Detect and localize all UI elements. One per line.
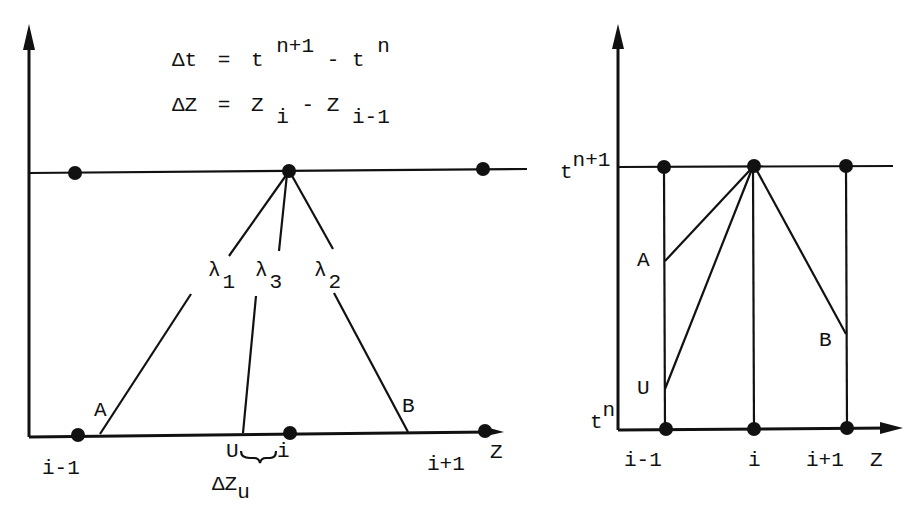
node-top-i xyxy=(282,164,296,178)
right-x-label-i-1: i-1 xyxy=(624,449,662,472)
lambda3-label: λ3 xyxy=(255,259,282,294)
right-x-label-i: i xyxy=(748,449,761,472)
x-label-i: i xyxy=(277,440,290,463)
right-node-top-i-1 xyxy=(657,160,671,174)
lambda3-line-lower xyxy=(243,296,256,433)
left-time-axis-arrow-icon xyxy=(23,24,35,50)
x-label-i+1: i+1 xyxy=(427,453,465,476)
y-label-tn1: tn+1 xyxy=(560,149,610,184)
node-top-i+1 xyxy=(476,162,490,176)
lambda1-label: λ1 xyxy=(208,259,235,294)
delta-zu-brace xyxy=(241,451,276,463)
lambda2-line-lower xyxy=(334,293,408,432)
right-node-top-i+1 xyxy=(839,159,853,173)
right-node-bottom-i xyxy=(747,422,761,436)
right-node-bottom-i-1 xyxy=(659,422,673,436)
right-lambda2-line xyxy=(756,169,846,334)
right-node-bottom-i+1 xyxy=(840,421,854,435)
x-label-i-1: i-1 xyxy=(42,457,80,480)
right-time-axis-arrow-icon xyxy=(612,24,624,49)
left-panel: Δt = t n+1 - t n ΔZ = Z i - Z i-1 λ1 λ3 … xyxy=(23,24,527,504)
lambda3-line-upper xyxy=(279,174,287,251)
node-top-i-1 xyxy=(68,166,82,180)
vertical-i+1 xyxy=(846,166,847,428)
y-label-tn: tn xyxy=(590,399,615,434)
right-panel: tn+1 tn A B U i-1 i i+1 Z xyxy=(560,24,903,472)
left-time-level-n1 xyxy=(29,169,527,173)
point-a-label: A xyxy=(94,399,107,422)
z-axis-label: Z xyxy=(490,441,503,464)
node-bottom-i+1 xyxy=(478,424,492,438)
equation-dt: Δt = t n+1 - t n xyxy=(172,35,390,72)
node-bottom-i xyxy=(283,426,297,440)
right-x-label-i+1: i+1 xyxy=(806,449,844,472)
right-point-a-label: A xyxy=(637,249,650,272)
point-b-label: B xyxy=(402,395,415,418)
right-node-top-i xyxy=(747,159,761,173)
point-u-label: U xyxy=(226,440,239,463)
equation-dz: ΔZ = Z i - Z i-1 xyxy=(172,94,390,129)
lambda2-line-upper xyxy=(291,174,333,249)
lambda1-line-lower xyxy=(100,294,191,434)
node-bottom-i-1 xyxy=(71,428,85,442)
lambda2-label: λ2 xyxy=(314,259,341,294)
right-point-b-label: B xyxy=(819,329,832,352)
right-z-axis-arrow-icon xyxy=(880,422,903,434)
vertical-i-1 xyxy=(664,167,665,430)
characteristics-diagram: Δt = t n+1 - t n ΔZ = Z i - Z i-1 λ1 λ3 … xyxy=(0,0,922,510)
right-z-axis-label: Z xyxy=(870,449,883,472)
right-point-u-label: U xyxy=(637,377,650,400)
right-lambda1-line xyxy=(665,169,751,261)
left-z-axis xyxy=(29,432,490,437)
lambda1-line-upper xyxy=(229,174,287,256)
right-lambda3-line xyxy=(665,169,752,389)
vertical-i xyxy=(753,167,754,429)
delta-zu-label: ΔZu xyxy=(212,473,250,504)
